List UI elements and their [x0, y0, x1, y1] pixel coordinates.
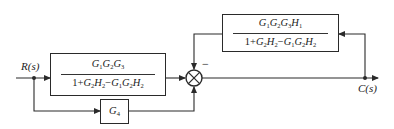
input-branch-point: [32, 76, 36, 80]
forward-denominator: 1+G2H2−G1G2H2: [72, 76, 143, 92]
feedback-numerator: G1G2G3H1: [259, 16, 302, 32]
input-label: R(s): [21, 60, 39, 72]
output-branch-point: [363, 76, 367, 80]
feedback-block: G1G2G3H1 1+G2H2−G1G2H2: [222, 14, 339, 52]
g4-label: G4: [109, 104, 120, 120]
forward-numerator: G1G2G3: [92, 57, 125, 73]
feedback-fraction-bar: [233, 33, 327, 34]
feedback-denominator: 1+G2H2−G1G2H2: [245, 35, 316, 51]
feedback-wire-in: [339, 34, 365, 78]
summer-minus-sign: −: [202, 58, 209, 70]
feedforward-block-g4: G4: [100, 99, 129, 124]
forward-block: G1G2G3 1+G2H2−G1G2H2: [50, 53, 166, 96]
output-label: C(s): [358, 82, 377, 94]
forward-fraction-bar: [61, 74, 154, 75]
